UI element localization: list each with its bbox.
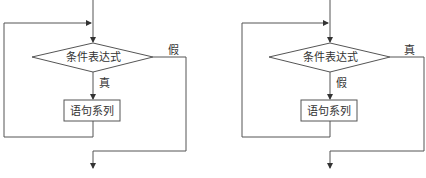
statement-text: 语句系列 bbox=[307, 104, 351, 118]
condition-text: 条件表达式 bbox=[303, 50, 358, 64]
flowchart-canvas: 条件表达式 真 语句系列 假 条件表达式 假 语句系列 真 bbox=[0, 0, 426, 178]
statement-text: 语句系列 bbox=[70, 104, 114, 118]
down-branch-label: 真 bbox=[99, 76, 110, 90]
right-branch-label: 真 bbox=[404, 43, 415, 57]
right-branch-label: 假 bbox=[168, 43, 179, 57]
down-branch-label: 假 bbox=[336, 76, 347, 90]
condition-text: 条件表达式 bbox=[66, 50, 121, 64]
left-flowchart: 条件表达式 真 语句系列 假 bbox=[4, 0, 186, 168]
right-flowchart: 条件表达式 假 语句系列 真 bbox=[242, 0, 424, 168]
